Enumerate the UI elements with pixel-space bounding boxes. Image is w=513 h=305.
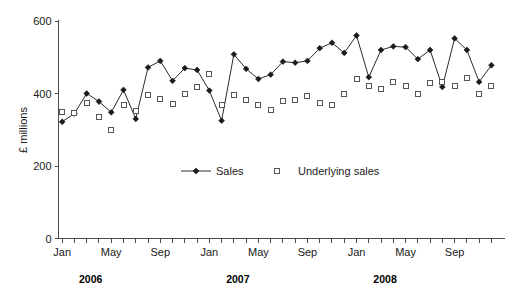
data-point-underlying-sales (464, 76, 469, 81)
data-point-sales (378, 47, 384, 53)
legend-label-sales: Sales (216, 165, 244, 177)
data-point-underlying-sales (452, 84, 457, 89)
data-point-underlying-sales (428, 80, 433, 85)
data-point-sales (84, 91, 90, 97)
data-point-underlying-sales (280, 99, 285, 104)
data-point-underlying-sales (207, 71, 212, 76)
data-point-underlying-sales (195, 84, 200, 89)
y-axis-title: £ millions (17, 107, 29, 153)
data-point-underlying-sales (84, 100, 89, 105)
chart-canvas: 0200400600£ millionsJanMaySepJanMaySepJa… (0, 0, 513, 305)
data-point-underlying-sales (219, 103, 224, 108)
x-tick-label: Sep (151, 246, 171, 258)
data-point-underlying-sales (329, 103, 334, 108)
data-point-sales (390, 43, 396, 49)
x-tick-label: Sep (298, 246, 318, 258)
legend-label-underlying-sales: Underlying sales (298, 165, 380, 177)
x-tick-label: Jan (200, 246, 218, 258)
data-point-underlying-sales (366, 84, 371, 89)
data-point-underlying-sales (305, 94, 310, 99)
data-point-underlying-sales (182, 92, 187, 97)
x-tick-label: Jan (348, 246, 366, 258)
data-point-sales (133, 116, 139, 122)
legend-sales-marker (193, 168, 199, 174)
series-underlying-sales (60, 71, 494, 133)
y-tick-label: 200 (33, 160, 51, 172)
data-point-sales (366, 74, 372, 80)
data-point-sales (219, 118, 225, 124)
data-point-underlying-sales (293, 98, 298, 103)
data-point-sales (157, 58, 163, 64)
data-point-underlying-sales (72, 111, 77, 116)
data-point-underlying-sales (158, 96, 163, 101)
data-point-sales (292, 60, 298, 66)
chart-legend: SalesUnderlying sales (181, 165, 380, 177)
data-point-underlying-sales (133, 108, 138, 113)
data-point-underlying-sales (121, 103, 126, 108)
data-point-sales (145, 65, 151, 71)
x-tick-label: May (248, 246, 269, 258)
data-point-sales (59, 119, 65, 125)
data-point-underlying-sales (440, 79, 445, 84)
data-point-underlying-sales (403, 84, 408, 89)
year-label: 2008 (373, 273, 397, 285)
sales-line-chart: 0200400600£ millionsJanMaySepJanMaySepJa… (0, 0, 513, 305)
y-tick-label: 600 (33, 15, 51, 27)
data-point-underlying-sales (231, 93, 236, 98)
data-point-underlying-sales (415, 91, 420, 96)
data-point-underlying-sales (256, 103, 261, 108)
series-sales (59, 33, 494, 125)
x-tick-label: May (395, 246, 416, 258)
data-point-underlying-sales (146, 93, 151, 98)
data-point-underlying-sales (170, 101, 175, 106)
data-point-underlying-sales (96, 115, 101, 120)
data-point-underlying-sales (489, 84, 494, 89)
data-point-sales (206, 88, 212, 94)
data-point-underlying-sales (109, 128, 114, 133)
year-label: 2006 (79, 273, 103, 285)
data-point-underlying-sales (268, 107, 273, 112)
data-point-sales (121, 87, 127, 93)
data-point-sales (439, 84, 445, 90)
legend-underlying-sales-marker (275, 169, 280, 174)
data-point-underlying-sales (60, 110, 65, 115)
data-point-sales (194, 67, 200, 73)
data-point-underlying-sales (244, 98, 249, 103)
y-tick-label: 400 (33, 88, 51, 100)
data-point-underlying-sales (379, 87, 384, 92)
data-point-underlying-sales (354, 77, 359, 82)
year-label: 2007 (226, 273, 250, 285)
x-tick-label: Jan (53, 246, 71, 258)
series-line (62, 36, 491, 122)
data-point-underlying-sales (317, 100, 322, 105)
y-tick-label: 0 (45, 233, 51, 245)
data-point-underlying-sales (342, 92, 347, 97)
data-point-underlying-sales (477, 91, 482, 96)
x-tick-label: May (101, 246, 122, 258)
data-point-underlying-sales (391, 79, 396, 84)
x-tick-label: Sep (445, 246, 465, 258)
